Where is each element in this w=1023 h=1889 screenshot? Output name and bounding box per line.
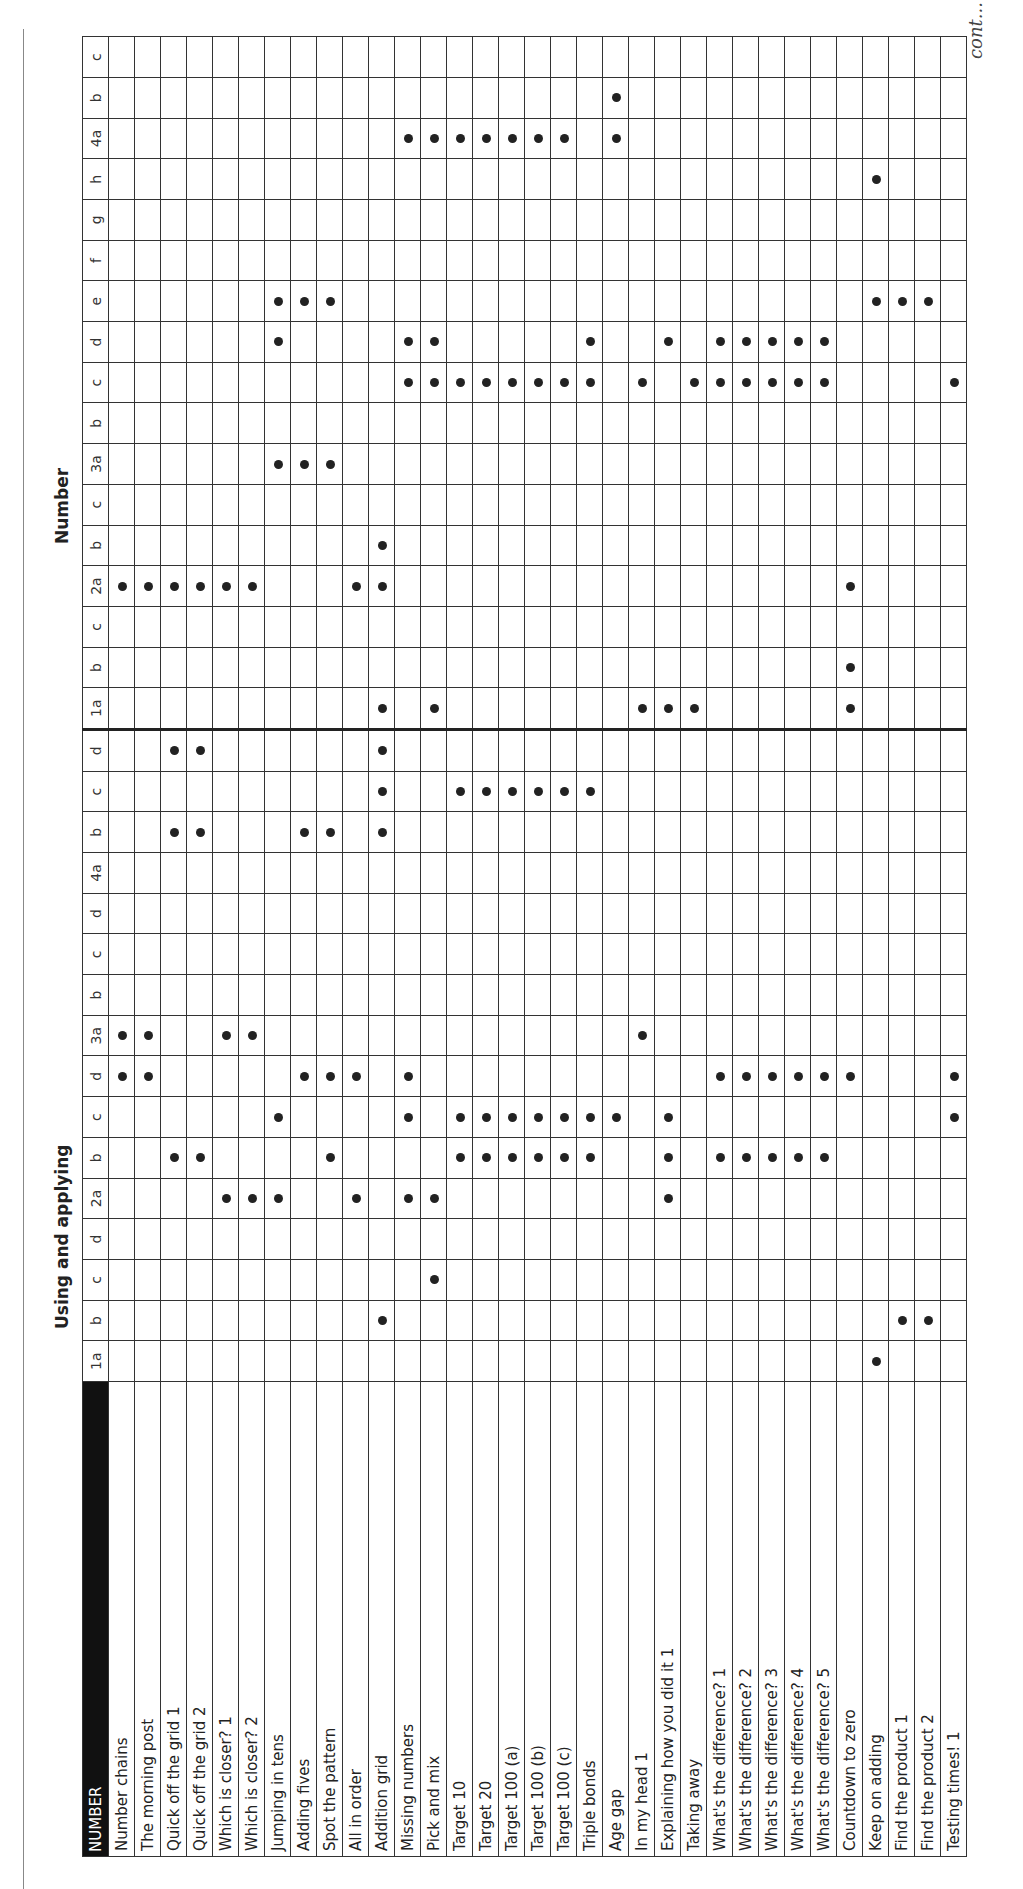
grid-cell	[577, 403, 603, 444]
grid-cell	[213, 771, 239, 812]
grid-cell	[135, 688, 161, 730]
grid-cell	[889, 1178, 915, 1219]
grid-cell	[109, 37, 135, 78]
grid-cell	[109, 771, 135, 812]
grid-cell	[655, 159, 681, 200]
grid-cell	[811, 934, 837, 975]
grid-cell	[291, 1015, 317, 1056]
grid-cell	[291, 647, 317, 688]
dot-mark-icon	[222, 582, 231, 591]
grid-cell	[525, 118, 551, 159]
grid-cell	[239, 1097, 265, 1138]
grid-cell	[655, 78, 681, 119]
grid-cell	[421, 1097, 447, 1138]
dot-mark-icon	[352, 582, 361, 591]
grid-cell	[941, 730, 967, 772]
grid-cell	[785, 1056, 811, 1097]
grid-cell	[447, 606, 473, 647]
grid-cell	[317, 322, 343, 363]
grid-cell	[395, 525, 421, 566]
grid-cell	[733, 484, 759, 525]
grid-cell	[109, 893, 135, 934]
dot-mark-icon	[300, 460, 309, 469]
dot-mark-icon	[378, 1316, 387, 1325]
grid-cell	[681, 771, 707, 812]
grid-cell	[187, 484, 213, 525]
grid-cell	[291, 240, 317, 281]
grid-cell	[811, 1259, 837, 1300]
grid-cell	[915, 730, 941, 772]
grid-cell	[161, 688, 187, 730]
grid-cell	[187, 975, 213, 1016]
grid-cell	[369, 1178, 395, 1219]
grid-cell	[577, 444, 603, 485]
grid-cell	[395, 362, 421, 403]
grid-cell	[525, 362, 551, 403]
grid-cell	[863, 525, 889, 566]
grid-cell	[187, 1178, 213, 1219]
dot-mark-icon	[716, 378, 725, 387]
criterion-header-1a: 1a	[83, 688, 109, 730]
grid-cell	[447, 362, 473, 403]
grid-cell	[811, 281, 837, 322]
criterion-header-3c: c	[83, 934, 109, 975]
dot-mark-icon	[820, 337, 829, 346]
grid-cell	[889, 159, 915, 200]
grid-cell	[863, 1097, 889, 1138]
grid-cell	[811, 1015, 837, 1056]
grid-cell	[941, 200, 967, 241]
dot-mark-icon	[742, 1072, 751, 1081]
grid-cell	[681, 1300, 707, 1341]
grid-cell	[135, 281, 161, 322]
grid-cell	[161, 37, 187, 78]
grid-cell	[655, 1341, 681, 1382]
grid-cell	[941, 78, 967, 119]
grid-cell	[161, 647, 187, 688]
grid-cell	[707, 444, 733, 485]
grid-cell	[603, 934, 629, 975]
grid-cell	[473, 688, 499, 730]
criterion-header-3h: h	[83, 159, 109, 200]
table-row: Target 20	[473, 37, 499, 1857]
grid-cell	[135, 322, 161, 363]
grid-cell	[759, 853, 785, 894]
grid-cell	[915, 1219, 941, 1260]
grid-cell	[785, 566, 811, 607]
activity-label: Spot the pattern	[317, 1382, 343, 1857]
grid-cell	[681, 853, 707, 894]
grid-cell	[291, 200, 317, 241]
grid-cell	[447, 688, 473, 730]
grid-cell	[161, 281, 187, 322]
grid-cell	[473, 118, 499, 159]
grid-cell	[265, 566, 291, 607]
grid-cell	[109, 975, 135, 1016]
grid-cell	[915, 200, 941, 241]
grid-cell	[577, 37, 603, 78]
activity-label: Target 10	[447, 1382, 473, 1857]
grid-cell	[759, 1097, 785, 1138]
dot-mark-icon	[456, 378, 465, 387]
grid-cell	[577, 606, 603, 647]
grid-cell	[681, 322, 707, 363]
grid-cell	[785, 934, 811, 975]
grid-cell	[889, 688, 915, 730]
grid-cell	[759, 812, 785, 853]
grid-cell	[603, 1097, 629, 1138]
grid-cell	[811, 606, 837, 647]
grid-cell	[889, 853, 915, 894]
grid-cell	[785, 37, 811, 78]
grid-cell	[681, 1341, 707, 1382]
grid-cell	[889, 730, 915, 772]
grid-cell	[369, 1300, 395, 1341]
table-row: Which is closer? 2	[239, 37, 265, 1857]
grid-cell	[291, 1341, 317, 1382]
grid-cell	[317, 362, 343, 403]
grid-cell	[603, 525, 629, 566]
table-row: What's the difference? 4	[785, 37, 811, 1857]
grid-cell	[681, 812, 707, 853]
grid-cell	[239, 118, 265, 159]
grid-cell	[525, 444, 551, 485]
grid-cell	[603, 688, 629, 730]
grid-cell	[213, 893, 239, 934]
grid-cell	[421, 37, 447, 78]
